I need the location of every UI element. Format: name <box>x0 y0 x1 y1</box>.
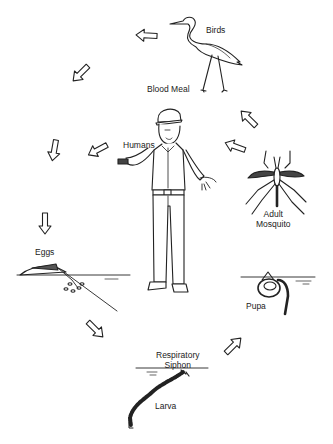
label-birds: Birds <box>206 25 225 35</box>
larva-illustration <box>129 368 208 428</box>
label-larva: Larva <box>155 401 176 411</box>
adult-mosquito-illustration <box>246 151 306 214</box>
label-pupa: Pupa <box>246 301 266 311</box>
label-adult-mosquito: Adult Mosquito <box>256 209 291 229</box>
label-adult-line2: Mosquito <box>256 219 291 229</box>
arrow-larva-to-pupa <box>222 334 245 357</box>
human-illustration <box>118 109 216 292</box>
arrow-eggs-to-larva <box>84 318 107 341</box>
arrow-top-left <box>69 62 92 85</box>
arrow-humans-to-left <box>86 140 110 160</box>
label-siphon-line2: Siphon <box>156 360 199 370</box>
label-siphon-line1: Respiratory <box>156 350 199 360</box>
arrow-adult-to-humans <box>223 137 247 155</box>
label-respiratory-siphon: Respiratory Siphon <box>156 350 199 370</box>
arrow-left-down <box>46 139 61 162</box>
mosquito-life-cycle-diagram: Birds Blood Meal Humans Adult Mosquito E… <box>0 0 333 444</box>
label-humans: Humans <box>123 140 155 150</box>
eggs-illustration <box>17 264 130 311</box>
arrow-adult-to-birds <box>237 107 260 130</box>
label-blood-meal: Blood Meal <box>147 84 190 94</box>
label-eggs: Eggs <box>35 247 54 257</box>
arrow-to-eggs <box>39 213 51 234</box>
arrow-birds-to-left <box>136 29 158 42</box>
label-adult-line1: Adult <box>256 209 291 219</box>
